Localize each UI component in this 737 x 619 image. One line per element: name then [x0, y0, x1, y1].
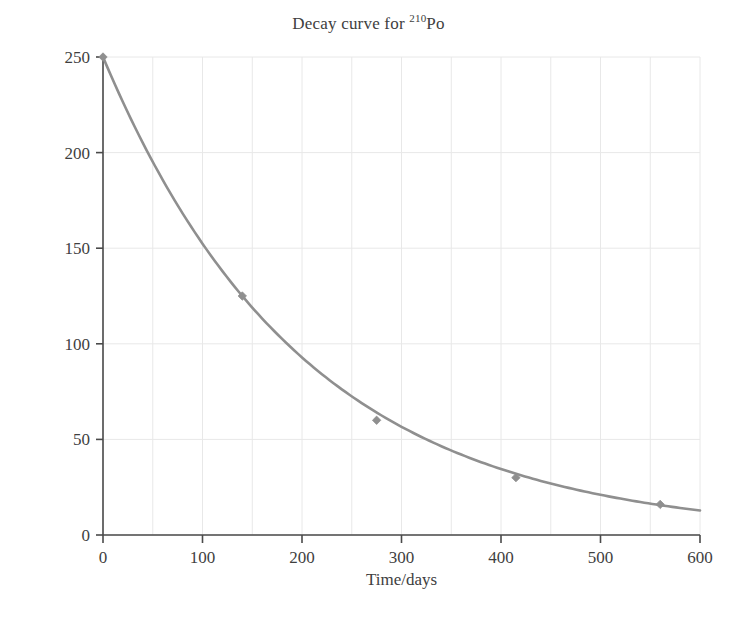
x-tick-label: 300 [389, 548, 415, 567]
x-tick-label: 200 [289, 548, 315, 567]
y-tick-label: 100 [65, 335, 91, 354]
chart-title-main: Decay curve for [292, 14, 409, 33]
x-axis-title: Time/days [103, 570, 700, 590]
data-point-marker [372, 416, 380, 424]
chart-title: Decay curve for 210Po [0, 14, 737, 34]
x-tick-label: 600 [687, 548, 713, 567]
x-tick-label: 0 [99, 548, 108, 567]
x-tick-label: 500 [588, 548, 614, 567]
y-tick-label: 50 [73, 430, 90, 449]
x-tick-label: 400 [488, 548, 514, 567]
chart-title-element: Po [426, 14, 444, 33]
axis-ticks [96, 57, 700, 543]
decay-curve-figure: Decay curve for 210Po Mass of polonium-2… [0, 0, 737, 619]
y-tick-label: 250 [65, 48, 91, 67]
chart-title-superscript: 210 [409, 12, 426, 24]
y-tick-label: 200 [65, 144, 91, 163]
y-tick-label: 150 [65, 239, 91, 258]
x-tick-label: 100 [190, 548, 216, 567]
data-point-markers [99, 53, 665, 509]
y-tick-label: 0 [82, 526, 91, 545]
axis-tick-labels: 0501001502002500100200300400500600 [65, 48, 713, 567]
plot-area: 0501001502002500100200300400500600 [0, 0, 737, 619]
data-point-marker [656, 500, 664, 508]
gridlines [103, 57, 700, 535]
data-point-marker [99, 53, 107, 61]
